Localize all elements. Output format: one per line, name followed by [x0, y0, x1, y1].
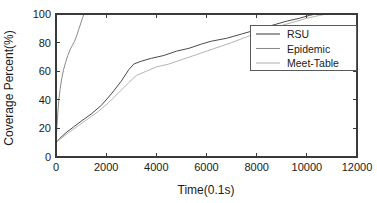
legend-label-epidemic: Epidemic: [287, 43, 330, 55]
legend-label-meet-table: Meet-Table: [287, 57, 339, 69]
x-tick-label: 0: [53, 161, 59, 173]
y-axis-title: Coverage Percent(%): [2, 30, 16, 145]
legend: RSUEpidemicMeet-Table: [250, 25, 356, 70]
x-tick-label: 10000: [292, 161, 323, 173]
y-tick-label: 80: [39, 37, 51, 49]
y-tick-label: 40: [39, 94, 51, 106]
x-tick-label: 8000: [244, 161, 268, 173]
y-tick-label: 60: [39, 65, 51, 77]
x-tick-label: 6000: [194, 161, 218, 173]
x-tick-label: 2000: [94, 161, 118, 173]
legend-label-rsu: RSU: [287, 28, 309, 40]
y-tick-labels: 020406080100: [33, 8, 51, 163]
x-tick-label: 4000: [144, 161, 168, 173]
x-tick-labels: 020004000600080001000012000: [53, 161, 372, 173]
x-tick-label: 12000: [342, 161, 373, 173]
line-chart: 020004000600080001000012000 020406080100…: [0, 0, 377, 203]
chart-figure: 020004000600080001000012000 020406080100…: [0, 0, 377, 203]
x-axis-title: Time(0.1s): [178, 183, 235, 197]
y-tick-label: 0: [45, 151, 51, 163]
y-tick-label: 20: [39, 122, 51, 134]
y-tick-label: 100: [33, 8, 51, 20]
